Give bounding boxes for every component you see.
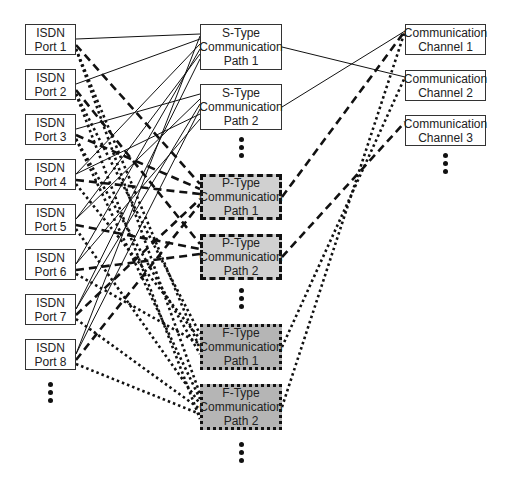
port-label: ISDN Port 5	[34, 206, 66, 234]
path-label: F-Type Communication Path 1	[199, 326, 282, 368]
s-type-connection	[76, 39, 200, 84]
port-label: ISDN Port 4	[34, 161, 66, 189]
port-label: ISDN Port 8	[34, 341, 66, 369]
isdn-port-1[interactable]: ISDN Port 1	[25, 24, 76, 55]
s-type-connection	[76, 34, 200, 39]
s-paths-continuation-ellipsis	[239, 137, 245, 161]
isdn-port-3[interactable]: ISDN Port 3	[25, 114, 76, 145]
s-type-path-1[interactable]: S-Type Communication Path 1	[200, 24, 282, 70]
p-type-path-1[interactable]: P-Type Communication Path 1	[200, 174, 282, 220]
f-type-path-2[interactable]: F-Type Communication Path 2	[200, 384, 282, 430]
f-type-connection	[76, 139, 200, 399]
s-type-connection	[76, 44, 200, 174]
communication-channel-1[interactable]: Communication Channel 1	[405, 24, 486, 55]
isdn-port-5[interactable]: ISDN Port 5	[25, 204, 76, 235]
p-type-connection	[282, 122, 405, 257]
path-label: S-Type Communication Path 1	[199, 26, 282, 68]
p-type-path-2[interactable]: P-Type Communication Path 2	[200, 234, 282, 280]
channel-label: Communication Channel 2	[404, 72, 487, 100]
isdn-port-4[interactable]: ISDN Port 4	[25, 159, 76, 190]
channels-continuation-ellipsis	[443, 153, 449, 177]
f-type-connection	[76, 94, 200, 334]
channel-label: Communication Channel 1	[404, 26, 487, 54]
isdn-port-8[interactable]: ISDN Port 8	[25, 339, 76, 370]
p-paths-continuation-ellipsis	[239, 288, 245, 312]
communication-channel-3[interactable]: Communication Channel 3	[405, 115, 486, 146]
f-paths-continuation-ellipsis	[239, 442, 245, 466]
f-type-connection	[282, 31, 405, 407]
port-label: ISDN Port 6	[34, 251, 66, 279]
p-type-connection	[282, 31, 405, 197]
f-type-connection	[76, 49, 200, 349]
channel-label: Communication Channel 3	[404, 117, 487, 145]
s-type-connection	[282, 47, 405, 77]
isdn-port-7[interactable]: ISDN Port 7	[25, 294, 76, 325]
s-type-path-2[interactable]: S-Type Communication Path 2	[200, 84, 282, 130]
port-label: ISDN Port 3	[34, 116, 66, 144]
path-label: P-Type Communication Path 1	[199, 176, 282, 218]
f-type-connection	[76, 49, 200, 394]
port-label: ISDN Port 2	[34, 71, 66, 99]
f-type-connection	[76, 364, 200, 414]
port-label: ISDN Port 1	[34, 26, 66, 54]
path-label: F-Type Communication Path 2	[199, 386, 282, 428]
port-label: ISDN Port 7	[34, 296, 66, 324]
isdn-port-2[interactable]: ISDN Port 2	[25, 69, 76, 100]
s-type-connection	[76, 99, 200, 219]
f-type-connection	[282, 77, 405, 347]
f-type-path-1[interactable]: F-Type Communication Path 1	[200, 324, 282, 370]
isdn-port-6[interactable]: ISDN Port 6	[25, 249, 76, 280]
s-type-connection	[282, 31, 405, 107]
path-label: S-Type Communication Path 2	[199, 86, 282, 128]
f-type-connection	[76, 319, 200, 409]
communication-channel-2[interactable]: Communication Channel 2	[405, 70, 486, 101]
path-label: P-Type Communication Path 2	[199, 236, 282, 278]
ports-continuation-ellipsis	[48, 382, 54, 406]
